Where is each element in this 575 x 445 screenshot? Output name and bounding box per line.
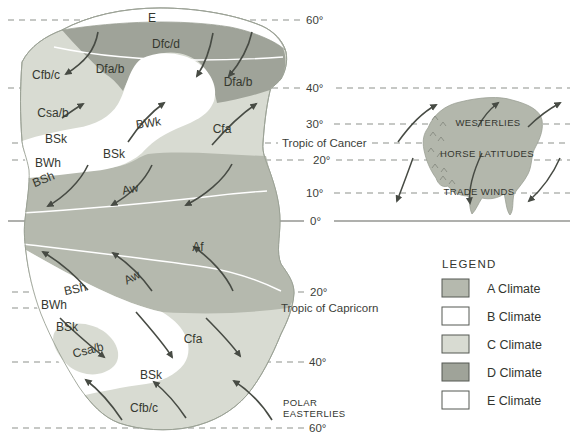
- legend-swatch-c-climate: [442, 335, 469, 353]
- latitude-label-equator: 0°: [310, 215, 321, 227]
- zone-label-dfcd: Dfc/d: [152, 37, 180, 51]
- latitude-label-40n: 40°: [306, 82, 323, 94]
- zone-label-dfab-west: Dfa/b: [96, 62, 125, 76]
- legend: LEGEND A Climate B Climate C Climate D C…: [413, 249, 556, 430]
- zone-label-e: E: [148, 11, 156, 25]
- zone-label-cfa-north: Cfa: [213, 122, 232, 136]
- latitude-label-60s: 60°: [309, 422, 326, 434]
- zone-label-bsk-nc: BSk: [103, 147, 126, 161]
- horse-latitudes-label: HORSE LATITUDES: [440, 148, 534, 159]
- trade-winds-label: TRADE WINDS: [444, 186, 515, 197]
- latitude-label-30n: 30°: [306, 118, 323, 130]
- latitude-label-10n: 10°: [306, 187, 323, 199]
- polar-easterlies-label: POLAR EASTERLIES: [283, 397, 346, 419]
- zone-label-bsk-sw: BSk: [56, 320, 79, 334]
- polar-easterlies-line2: EASTERLIES: [283, 408, 346, 419]
- legend-swatch-e-climate: [442, 391, 469, 409]
- latitude-label-20n: 20°: [313, 154, 330, 166]
- zone-label-cfbc-north: Cfb/c: [32, 68, 60, 82]
- polar-easterlies-line1: POLAR: [283, 397, 317, 408]
- zone-label-bsk-south: BSk: [140, 368, 163, 382]
- legend-swatch-d-climate: [442, 363, 469, 381]
- legend-label-c-climate: C Climate: [487, 338, 542, 352]
- zone-label-cfbc-south: Cfb/c: [130, 401, 158, 415]
- latitude-label-60n: 60°: [306, 14, 323, 26]
- legend-label-a-climate: A Climate: [487, 282, 541, 296]
- zone-label-bsk-nw: BSk: [45, 132, 68, 146]
- zone-label-af: Af: [192, 240, 204, 254]
- climate-diagram: E Dfc/d Dfa/b Dfa/b Cfb/c Csa/b BWk BSk …: [0, 0, 575, 445]
- zone-label-bwh-south: BWh: [41, 298, 67, 312]
- zone-label-bwh-north: BWh: [35, 156, 61, 170]
- zone-label-dfab-east: Dfa/b: [224, 75, 253, 89]
- inset-trade-arrow-3: [529, 158, 560, 201]
- climate-diagram-svg: E Dfc/d Dfa/b Dfa/b Cfb/c Csa/b BWk BSk …: [0, 0, 575, 445]
- latitude-label-20s: 20°: [310, 286, 327, 298]
- latitude-label-tropic-cancer: Tropic of Cancer: [282, 137, 367, 149]
- legend-label-d-climate: D Climate: [487, 366, 542, 380]
- inset-wind-map: WESTERLIES HORSE LATITUDES TRADE WINDS: [397, 98, 560, 215]
- westerlies-label: WESTERLIES: [455, 117, 520, 128]
- zone-label-csab-north: Csa/b: [37, 106, 69, 120]
- legend-swatch-a-climate: [442, 279, 469, 297]
- latitude-label-tropic-capricorn: Tropic of Capricorn: [281, 302, 378, 314]
- inset-trade-arrow-1: [397, 158, 413, 201]
- legend-label-b-climate: B Climate: [487, 310, 541, 324]
- latitude-label-40s: 40°: [309, 356, 326, 368]
- legend-title: LEGEND: [442, 258, 497, 270]
- zone-label-cfa-south: Cfa: [184, 332, 203, 346]
- latitude-labels: 60° 40° 30° Tropic of Cancer 20° 10° 0° …: [281, 14, 378, 434]
- legend-label-e-climate: E Climate: [487, 394, 541, 408]
- legend-swatch-b-climate: [442, 307, 469, 325]
